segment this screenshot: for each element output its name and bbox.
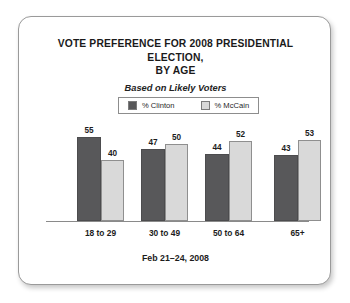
bar-group: 4452: [205, 130, 252, 221]
bar-clinton[interactable]: 43: [274, 144, 298, 221]
legend-label-clinton: % Clinton: [142, 101, 175, 110]
bar-rect[interactable]: [205, 154, 229, 221]
bar-mccain[interactable]: 52: [229, 130, 252, 221]
bar-value-label: 53: [305, 129, 314, 138]
chart-title: VOTE PREFERENCE FOR 2008 PRESIDENTIAL EL…: [29, 37, 322, 78]
bar-clinton[interactable]: 44: [205, 143, 229, 221]
bar-value-label: 47: [148, 138, 157, 147]
bar-rect[interactable]: [141, 149, 165, 221]
legend-entry-clinton: % Clinton: [128, 101, 175, 110]
bar-clinton[interactable]: 55: [77, 126, 101, 221]
bar-clinton[interactable]: 47: [141, 138, 165, 221]
category-label: 65+: [260, 228, 335, 238]
plot-area: 5540475044524353: [46, 129, 309, 221]
bar-rect[interactable]: [298, 140, 321, 221]
footer-note: Feb 21–24, 2008: [29, 253, 322, 263]
bar-value-label: 40: [108, 149, 117, 158]
bar-rect[interactable]: [274, 155, 298, 221]
title-block: VOTE PREFERENCE FOR 2008 PRESIDENTIAL EL…: [29, 37, 322, 94]
chart-title-line-2: BY AGE: [29, 64, 322, 78]
x-axis-baseline: [46, 221, 309, 222]
bar-value-label: 52: [236, 130, 245, 139]
bar-rect[interactable]: [165, 144, 188, 221]
bar-rect[interactable]: [77, 137, 101, 221]
bar-value-label: 43: [281, 144, 290, 153]
legend-swatch-clinton: [128, 101, 137, 110]
bar-group: 4353: [274, 129, 321, 221]
legend-swatch-mccain: [201, 101, 210, 110]
bar-rect[interactable]: [229, 141, 252, 221]
bar-value-label: 55: [84, 126, 93, 135]
chart-title-line-1: VOTE PREFERENCE FOR 2008 PRESIDENTIAL EL…: [29, 37, 322, 64]
bar-group: 5540: [77, 126, 124, 221]
chart-card: VOTE PREFERENCE FOR 2008 PRESIDENTIAL EL…: [18, 16, 331, 285]
bar-mccain[interactable]: 50: [165, 133, 188, 221]
category-label: 50 to 64: [191, 228, 266, 238]
bar-value-label: 44: [212, 143, 221, 152]
bar-mccain[interactable]: 53: [298, 129, 321, 221]
legend-label-mccain: % McCain: [215, 101, 250, 110]
bar-rect[interactable]: [101, 160, 124, 221]
bar-mccain[interactable]: 40: [101, 149, 124, 221]
chart-legend: % Clinton % McCain: [118, 97, 259, 114]
bar-value-label: 50: [172, 133, 181, 142]
chart-subtitle: Based on Likely Voters: [29, 82, 322, 94]
x-axis-category-labels: 18 to 2930 to 4950 to 6465+: [46, 228, 309, 244]
legend-entry-mccain: % McCain: [201, 101, 250, 110]
bar-group: 4750: [141, 133, 188, 221]
